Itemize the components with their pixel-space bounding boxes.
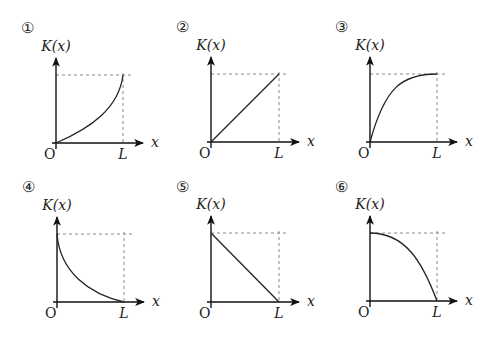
y-axis-label: K(x) — [40, 38, 70, 54]
K-curve — [211, 233, 279, 302]
graph-panel-4: ④K(x)OLx — [22, 178, 161, 321]
panel-number: ④ — [22, 178, 35, 196]
origin-label: O — [199, 145, 210, 161]
panel-number: ① — [21, 19, 34, 37]
K-curve — [370, 74, 437, 142]
y-axis-label: K(x) — [195, 37, 225, 53]
y-axis-label: K(x) — [354, 196, 384, 212]
graph-panel-6: ⑥K(x)OLx — [335, 178, 474, 320]
origin-label: O — [199, 305, 210, 321]
panel-number: ⑤ — [176, 178, 189, 196]
x-axis-label: x — [307, 133, 315, 149]
graph-panel-1: ①K(x)OLx — [21, 19, 160, 162]
x-axis-label: x — [307, 293, 315, 309]
x-axis-label: x — [465, 292, 473, 308]
panel-number: ② — [176, 18, 189, 36]
figure-canvas: ①K(x)OLx②K(x)OLx③K(x)OLx④K(x)OLx⑤K(x)OLx… — [0, 0, 497, 340]
K-curve — [370, 233, 437, 301]
L-label: L — [273, 145, 283, 161]
L-label: L — [273, 305, 283, 321]
L-label: L — [431, 304, 441, 320]
graph-panel-2: ②K(x)OLx — [176, 18, 316, 161]
L-label: L — [118, 305, 128, 321]
origin-label: O — [45, 305, 56, 321]
L-label: L — [431, 145, 441, 161]
y-axis-label: K(x) — [195, 196, 225, 212]
graph-panel-3: ③K(x)OLx — [335, 18, 474, 161]
graph-panel-5: ⑤K(x)OLx — [176, 178, 316, 321]
y-axis-label: K(x) — [354, 37, 384, 53]
panel-number: ③ — [335, 18, 348, 36]
K-curve — [56, 75, 123, 143]
x-axis-label: x — [151, 134, 159, 150]
origin-label: O — [358, 304, 369, 320]
panel-number: ⑥ — [335, 178, 348, 196]
x-axis-label: x — [152, 293, 160, 309]
origin-label: O — [44, 146, 55, 162]
x-axis-label: x — [465, 133, 473, 149]
K-curve — [211, 74, 279, 142]
origin-label: O — [358, 145, 369, 161]
K-curve — [57, 234, 124, 302]
L-label: L — [117, 146, 127, 162]
y-axis-label: K(x) — [41, 197, 71, 213]
